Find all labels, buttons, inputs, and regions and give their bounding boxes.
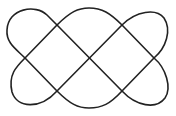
- knot-svg: [0, 0, 176, 116]
- knot-diagram: [0, 0, 176, 116]
- diagonal-1: [25, 58, 57, 91]
- arch-top: [57, 8, 122, 25]
- loop-top-right: [122, 12, 168, 58]
- diagonal-4: [25, 25, 57, 58]
- diagonal-6: [122, 58, 154, 91]
- arch-bottom: [57, 91, 122, 108]
- loop-bottom-right: [122, 58, 168, 105]
- diagonal-3: [122, 25, 154, 58]
- loop-bottom-left: [11, 58, 57, 105]
